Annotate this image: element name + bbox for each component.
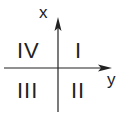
vertical-axis-label: x [39, 3, 48, 23]
quadrant-label-i: I [75, 38, 82, 64]
quadrant-label-iii: III [17, 78, 38, 104]
horizontal-axis-label: y [107, 70, 116, 90]
quadrant-label-iv: IV [17, 38, 40, 64]
quadrant-label-ii: II [71, 78, 85, 104]
